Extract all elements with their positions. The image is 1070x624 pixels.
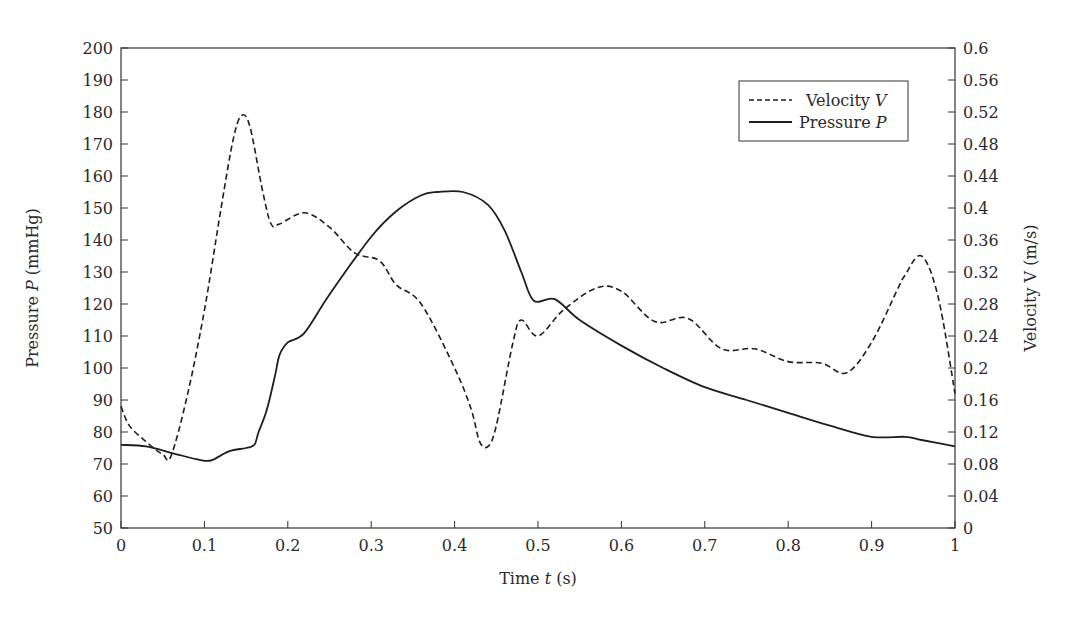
x-tick-label: 1	[950, 536, 960, 555]
y2-tick-label: 0.04	[963, 487, 999, 506]
x-tick-label: 0.6	[609, 536, 634, 555]
y2-tick-label: 0	[963, 519, 973, 538]
x-tick-label: 0.8	[775, 536, 800, 555]
pressure-line	[121, 191, 955, 461]
y2-tick-label: 0.36	[963, 231, 999, 250]
y-tick-label: 90	[93, 391, 113, 410]
y2-tick-label: 0.6	[963, 39, 988, 58]
y2-tick-label: 0.4	[963, 199, 988, 218]
x-tick-label: 0.4	[442, 536, 467, 555]
y2-tick-label: 0.56	[963, 71, 999, 90]
x-tick-label: 0	[116, 536, 126, 555]
x-tick-label: 0.5	[525, 536, 550, 555]
series-layer	[121, 115, 955, 461]
y2-tick-label: 0.52	[963, 103, 999, 122]
y-axis-left-title: Pressure P (mmHg)	[23, 208, 42, 368]
y-tick-label: 100	[82, 359, 113, 378]
legend: Velocity V Pressure P	[739, 81, 908, 141]
y-tick-label: 70	[93, 455, 113, 474]
x-axis-title: Time t (s)	[499, 569, 577, 588]
y2-tick-label: 0.48	[963, 135, 999, 154]
y-tick-label: 120	[82, 295, 113, 314]
pressure-velocity-chart: 00.10.20.30.40.50.60.70.80.91 5060708090…	[0, 0, 1070, 624]
y-tick-label: 80	[93, 423, 113, 442]
y2-tick-label: 0.44	[963, 167, 999, 186]
y-tick-label: 150	[82, 199, 113, 218]
y-tick-label: 50	[93, 519, 113, 538]
y-tick-label: 180	[82, 103, 113, 122]
y2-tick-label: 0.16	[963, 391, 999, 410]
x-tick-label: 0.3	[358, 536, 383, 555]
y2-tick-label: 0.28	[963, 295, 999, 314]
y-tick-label: 160	[82, 167, 113, 186]
y-axis-right-title: Velocity V (m/s)	[1021, 225, 1040, 353]
y-tick-label: 190	[82, 71, 113, 90]
y-tick-label: 110	[82, 327, 113, 346]
legend-label-velocity: Velocity V	[805, 91, 888, 110]
y2-tick-label: 0.08	[963, 455, 999, 474]
x-tick-label: 0.1	[192, 536, 217, 555]
velocity-line	[121, 115, 955, 461]
y-tick-label: 60	[93, 487, 113, 506]
x-tick-label: 0.7	[692, 536, 717, 555]
y2-tick-label: 0.24	[963, 327, 999, 346]
y2-tick-label: 0.12	[963, 423, 999, 442]
y2-tick-label: 0.32	[963, 263, 999, 282]
y-tick-label: 140	[82, 231, 113, 250]
y-tick-label: 170	[82, 135, 113, 154]
x-axis-ticks: 00.10.20.30.40.50.60.70.80.91	[116, 521, 960, 555]
x-tick-label: 0.2	[275, 536, 300, 555]
y-tick-label: 130	[82, 263, 113, 282]
legend-label-pressure: Pressure P	[799, 113, 887, 132]
y2-tick-label: 0.2	[963, 359, 988, 378]
y-tick-label: 200	[82, 39, 113, 58]
x-tick-label: 0.9	[859, 536, 884, 555]
